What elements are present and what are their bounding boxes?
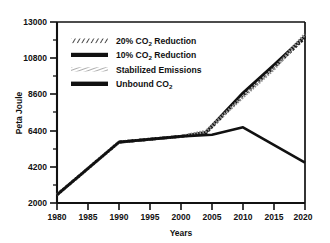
x-tick-label: 1995	[141, 212, 160, 222]
y-tick-label: 4200	[28, 162, 47, 172]
legend-label: 20% CO2 Reduction	[116, 36, 196, 47]
y-tick-label: 8600	[28, 89, 47, 99]
line-chart-canvas: 13000 10800 8600 6400 4200 2000 1980 198…	[0, 0, 330, 243]
legend-label: Unbound CO2	[116, 79, 173, 90]
x-tick-label: 2010	[234, 212, 253, 222]
y-axis-title: Peta Joule	[14, 91, 24, 134]
chart-figure: 13000 10800 8600 6400 4200 2000 1980 198…	[0, 0, 330, 243]
x-axis-title: Years	[170, 228, 193, 238]
x-tick-label: 2015	[265, 212, 284, 222]
legend-swatch-solid-icon	[71, 53, 108, 57]
x-tick-label: 1980	[48, 212, 67, 222]
y-tick-label: 2000	[28, 198, 47, 208]
legend-swatch-hatched-icon	[71, 39, 108, 44]
x-tick-labels: 1980 1985 1990 1995 2000 2005 2010 2015 …	[48, 212, 313, 222]
y-tick-label: 10800	[23, 53, 47, 63]
legend-label: 10% CO2 Reduction	[116, 50, 196, 61]
legend-swatch-dotted-icon	[71, 67, 108, 71]
legend-swatch-solid-icon	[71, 82, 108, 86]
y-tick-label: 6400	[28, 126, 47, 136]
y-tick-label: 13000	[23, 17, 47, 27]
x-tick-label: 1990	[110, 212, 129, 222]
x-tick-label: 2000	[172, 212, 191, 222]
x-tick-label: 1985	[79, 212, 98, 222]
x-tick-label: 2005	[203, 212, 222, 222]
x-tick-label: 2020	[294, 212, 313, 222]
legend-label: Stabilized Emissions	[116, 65, 202, 75]
